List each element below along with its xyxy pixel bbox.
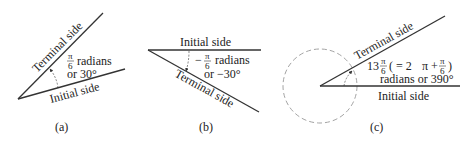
angle-whole: 13 bbox=[367, 59, 379, 73]
angle-equiv-frac-num: π bbox=[440, 56, 445, 66]
angle-degrees: or 30° bbox=[67, 67, 97, 81]
initial-side-label: Initial side bbox=[378, 89, 429, 103]
angle-arc-arrow bbox=[50, 69, 58, 88]
angle-equiv-plus: + bbox=[431, 59, 438, 73]
angle-frac-num: π bbox=[68, 51, 73, 61]
angle-arc-arrow bbox=[344, 71, 352, 86]
angle-frac-num: π bbox=[205, 51, 210, 61]
diagram-c: Terminal side 13 π 6 ( = 2 π + π 6 ) rad… bbox=[283, 16, 460, 134]
initial-side-label: Initial side bbox=[180, 35, 231, 49]
angle-arc-arrow bbox=[186, 51, 189, 71]
caption-c: (c) bbox=[370, 120, 383, 134]
diagram-a: Terminal side Initial side π 6 radians o… bbox=[18, 13, 125, 134]
caption-a: (a) bbox=[55, 120, 68, 134]
angle-second-line: radians or 390° bbox=[380, 72, 454, 86]
angle-degrees: or −30° bbox=[204, 67, 241, 81]
angle-equiv-close: ) bbox=[448, 59, 452, 73]
angle-frac-num: π bbox=[381, 56, 386, 66]
angle-equiv-pi: π bbox=[422, 59, 428, 73]
angle-unit: radians bbox=[77, 54, 112, 68]
angle-sign: − bbox=[195, 53, 202, 67]
diagram-b: Initial side Terminal side − π 6 radians… bbox=[148, 35, 261, 134]
angle-equiv-open: ( = 2 bbox=[389, 59, 412, 73]
angle-diagrams: Terminal side Initial side π 6 radians o… bbox=[0, 0, 471, 144]
angle-unit: radians bbox=[215, 53, 250, 67]
caption-b: (b) bbox=[199, 120, 213, 134]
